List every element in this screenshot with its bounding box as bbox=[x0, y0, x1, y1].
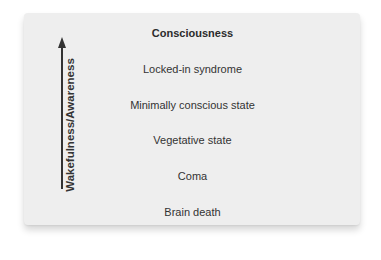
level-brain-death: Brain death bbox=[100, 205, 285, 219]
axis-label-wakefulness-awareness: Wakefulness/Awareness bbox=[63, 45, 77, 205]
level-consciousness: Consciousness bbox=[100, 26, 285, 40]
level-minimally-conscious-state: Minimally conscious state bbox=[100, 98, 285, 112]
level-vegetative-state: Vegetative state bbox=[100, 133, 285, 147]
level-locked-in-syndrome: Locked-in syndrome bbox=[100, 62, 285, 76]
level-coma: Coma bbox=[100, 169, 285, 183]
